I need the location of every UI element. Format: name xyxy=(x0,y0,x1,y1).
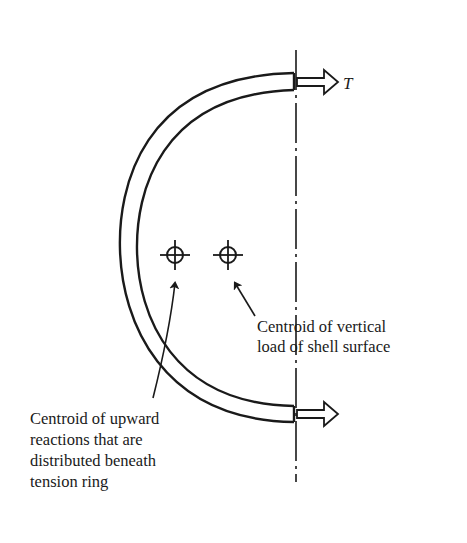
label-vertical-load: Centroid of vertical load of shell surfa… xyxy=(257,317,390,356)
leader-arrow-vertical-load xyxy=(235,283,255,316)
label-vertical-load-line-1: Centroid of vertical xyxy=(257,317,387,336)
label-vertical-load-line-2: load of shell surface xyxy=(257,337,390,356)
shell-inner-surface xyxy=(137,90,294,406)
tension-arrow-top xyxy=(297,70,338,94)
label-upward-reactions: Centroid of upward reactions that are di… xyxy=(30,409,163,491)
label-upward-reactions-line-1: Centroid of upward xyxy=(30,409,160,428)
shell-diagram: T Centroid of vertical load of shell sur… xyxy=(0,0,467,543)
shell-outer-surface xyxy=(120,73,294,422)
tension-arrow-bottom xyxy=(297,402,338,426)
label-upward-reactions-line-4: tension ring xyxy=(30,472,108,491)
leader-arrow-upward-reactions xyxy=(153,283,175,398)
label-upward-reactions-line-3: distributed beneath xyxy=(30,451,157,470)
centroid-vertical-load-icon xyxy=(213,240,243,270)
centroid-upward-reactions-icon xyxy=(160,240,190,270)
tension-label: T xyxy=(343,74,354,93)
label-upward-reactions-line-2: reactions that are xyxy=(30,430,143,449)
